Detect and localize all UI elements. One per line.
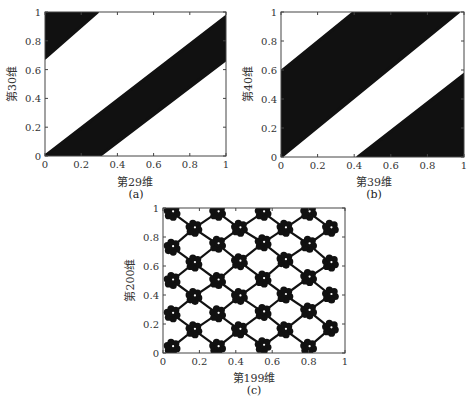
x-axis-label-a: 第29维 bbox=[117, 175, 153, 189]
y-tick-label: 0.6 bbox=[261, 65, 277, 76]
y-tick-label: 0.4 bbox=[25, 93, 41, 104]
point-cluster bbox=[231, 288, 248, 305]
point-cluster bbox=[164, 239, 181, 256]
point-cluster bbox=[209, 272, 226, 289]
y-tick-label: 0 bbox=[35, 151, 41, 162]
x-tick-label: 0.8 bbox=[301, 356, 317, 367]
chart-panel-c: 00.20.40.60.81 00.20.40.60.81 第199维 第200… bbox=[118, 196, 358, 402]
chart-panel-a: 00.20.40.60.81 00.20.40.60.81 第29维 第30维 … bbox=[0, 0, 236, 200]
y-tick-label: 0.6 bbox=[143, 261, 159, 272]
caption-c: (c) bbox=[234, 384, 274, 397]
y-tick-label: 0 bbox=[153, 348, 159, 359]
point-region bbox=[358, 74, 464, 157]
y-tick-label: 0.6 bbox=[25, 65, 41, 76]
y-tick-label: 1 bbox=[35, 7, 41, 18]
x-tick-label: 0 bbox=[160, 356, 166, 367]
point-cluster bbox=[186, 288, 203, 305]
point-cluster bbox=[164, 204, 181, 221]
y-axis-label-a: 第30维 bbox=[5, 66, 19, 102]
y-tick-label: 0.2 bbox=[143, 319, 159, 330]
x-tick-label: 0.2 bbox=[73, 159, 89, 170]
x-tick-label: 0.6 bbox=[264, 356, 280, 367]
x-tick-label: 0.8 bbox=[182, 159, 198, 170]
x-tick-label: 0.4 bbox=[228, 356, 244, 367]
x-tick-label: 1 bbox=[223, 159, 229, 170]
y-axis-label-b: 第40维 bbox=[241, 66, 255, 102]
point-cluster bbox=[164, 272, 181, 289]
point-region bbox=[45, 16, 226, 156]
point-cluster bbox=[300, 204, 317, 221]
y-tick-label: 0.2 bbox=[261, 123, 277, 134]
y-tick-label: 0.8 bbox=[143, 232, 159, 243]
x-tick-label: 1 bbox=[461, 160, 467, 171]
x-tick-label: 0.2 bbox=[191, 356, 207, 367]
point-cluster bbox=[186, 220, 203, 237]
scatter-plot-c: 00.20.40.60.81 00.20.40.60.81 第199维 第200… bbox=[118, 196, 358, 402]
point-cluster bbox=[209, 305, 226, 322]
point-cluster bbox=[164, 305, 181, 322]
point-region bbox=[45, 12, 97, 58]
y-tick-label: 0.4 bbox=[143, 290, 159, 301]
point-cluster bbox=[277, 220, 294, 237]
y-tick-label: 0.8 bbox=[25, 36, 41, 47]
y-tick-label: 0.2 bbox=[25, 122, 41, 133]
y-tick-label: 0 bbox=[271, 152, 277, 163]
y-tick-label: 1 bbox=[271, 7, 277, 18]
y-tick-label: 0.8 bbox=[261, 36, 277, 47]
scatter-plot-a: 00.20.40.60.81 00.20.40.60.81 第29维 第30维 bbox=[0, 0, 236, 200]
x-tick-label: 0.2 bbox=[310, 160, 326, 171]
data-regions-b bbox=[281, 12, 464, 157]
x-tick-label: 1 bbox=[342, 356, 348, 367]
x-tick-label: 0.4 bbox=[346, 160, 362, 171]
x-tick-label: 0.8 bbox=[419, 160, 435, 171]
point-cluster bbox=[186, 321, 203, 338]
point-cluster bbox=[231, 321, 248, 338]
point-cluster bbox=[255, 337, 272, 354]
y-tick-label: 1 bbox=[153, 203, 159, 214]
point-cluster bbox=[231, 220, 248, 237]
point-cluster bbox=[255, 204, 272, 221]
point-cluster bbox=[209, 204, 226, 221]
data-regions-a bbox=[45, 12, 226, 156]
y-axis-label-c: 第200维 bbox=[123, 259, 137, 302]
x-tick-label: 0.4 bbox=[109, 159, 125, 170]
point-cluster bbox=[322, 220, 339, 237]
x-tick-label: 0 bbox=[42, 159, 48, 170]
point-cluster bbox=[277, 287, 294, 304]
data-clusters-c bbox=[164, 204, 339, 356]
scatter-plot-b: 00.20.40.60.81 00.20.40.60.81 第39维 第40维 bbox=[236, 0, 471, 200]
x-axis-label-c: 第199维 bbox=[233, 371, 276, 385]
point-cluster bbox=[255, 271, 272, 288]
point-cluster bbox=[186, 255, 203, 272]
caption-b: (b) bbox=[354, 188, 394, 201]
x-tick-label: 0.6 bbox=[146, 159, 162, 170]
x-tick-label: 0.6 bbox=[383, 160, 399, 171]
y-tick-label: 0.4 bbox=[261, 94, 277, 105]
x-axis-label-b: 第39维 bbox=[356, 175, 392, 189]
x-tick-label: 0 bbox=[278, 160, 284, 171]
chart-panel-b: 00.20.40.60.81 00.20.40.60.81 第39维 第40维 … bbox=[236, 0, 471, 200]
